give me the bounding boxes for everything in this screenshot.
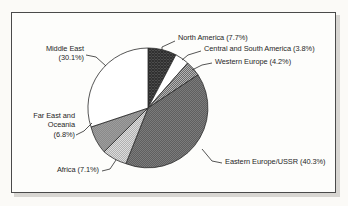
pie-label-far-east-oceania-line3: (6.8%) (12, 131, 75, 140)
leader-line-central-south-america (182, 51, 201, 60)
leader-line-africa (102, 160, 116, 171)
pie-label-central-south-america: Central and South America (3.8%) (204, 45, 315, 54)
pie-label-far-east-oceania-line2: Oceania (12, 121, 75, 130)
screenshot-root: North America (7.7%) Central and South A… (0, 0, 348, 206)
pie-label-north-america: North America (7.7%) (178, 34, 248, 43)
leader-line-western-europe (192, 63, 212, 70)
leader-line-middle-east (86, 55, 106, 66)
leader-line-far-east-oceania (76, 123, 92, 135)
leader-line-eastern-europe-ussr (202, 149, 222, 163)
figure-frame: North America (7.7%) Central and South A… (11, 12, 336, 193)
pie-label-eastern-europe-ussr: Eastern Europe/USSR (40.3%) (225, 158, 326, 167)
pie-label-western-europe: Western Europe (4.2%) (215, 58, 291, 67)
pie-label-africa: Africa (7.1%) (15, 166, 99, 175)
pie-label-middle-east-line2: (30.1%) (16, 54, 84, 63)
pie-chart-plot-area: North America (7.7%) Central and South A… (12, 13, 335, 192)
